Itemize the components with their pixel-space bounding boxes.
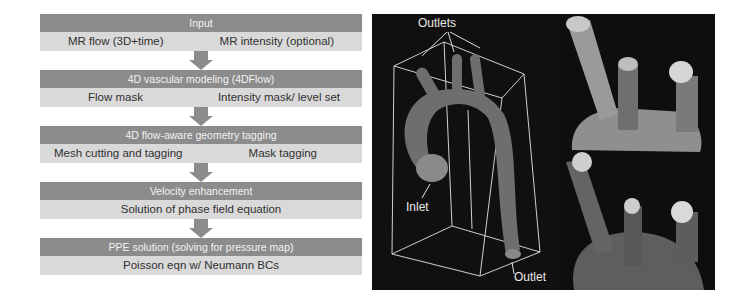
inlet-label: Inlet bbox=[406, 200, 429, 214]
stage-ppe-solution: PPE solution (solving for pressure map) … bbox=[40, 238, 362, 275]
outlet-label: Outlet bbox=[514, 270, 546, 284]
stage-title: Input bbox=[40, 14, 362, 32]
stage-items: Mesh cutting and tagging Mask tagging bbox=[40, 144, 362, 163]
stage-geometry-tagging: 4D flow-aware geometry tagging Mesh cutt… bbox=[40, 126, 362, 163]
mesh-render bbox=[566, 152, 704, 290]
stage-title: Velocity enhancement bbox=[40, 182, 362, 200]
stage-item: Flow mask bbox=[88, 88, 143, 107]
pipeline-flowchart: Input MR flow (3D+time) MR intensity (op… bbox=[40, 14, 362, 275]
down-arrow-icon bbox=[40, 51, 362, 70]
outlets-label: Outlets bbox=[418, 16, 456, 30]
stage-item: Intensity mask/ level set bbox=[218, 88, 340, 107]
stage-vascular-modeling: 4D vascular modeling (4DFlow) Flow mask … bbox=[40, 70, 362, 107]
stage-items: Solution of phase field equation bbox=[40, 200, 362, 219]
stage-velocity-enhancement: Velocity enhancement Solution of phase f… bbox=[40, 182, 362, 219]
branch-render-figures bbox=[560, 14, 715, 290]
aorta-wireframe-figure bbox=[372, 14, 560, 290]
stage-item: Mask tagging bbox=[249, 144, 317, 163]
aorta-render: Outlets Inlet Outlet bbox=[372, 14, 560, 290]
stage-item: MR flow (3D+time) bbox=[68, 32, 164, 51]
stage-item: Mesh cutting and tagging bbox=[54, 144, 183, 163]
stage-items: Flow mask Intensity mask/ level set bbox=[40, 88, 362, 107]
stage-item: Poisson eqn w/ Neumann BCs bbox=[123, 256, 279, 275]
stage-title: 4D vascular modeling (4DFlow) bbox=[40, 70, 362, 88]
stage-input: Input MR flow (3D+time) MR intensity (op… bbox=[40, 14, 362, 51]
down-arrow-icon bbox=[40, 107, 362, 126]
stage-items: MR flow (3D+time) MR intensity (optional… bbox=[40, 32, 362, 51]
arch-branch-renders bbox=[560, 14, 715, 290]
stage-items: Poisson eqn w/ Neumann BCs bbox=[40, 256, 362, 275]
voxel-mask-render bbox=[566, 16, 701, 152]
down-arrow-icon bbox=[40, 219, 362, 238]
stage-title: PPE solution (solving for pressure map) bbox=[40, 238, 362, 256]
down-arrow-icon bbox=[40, 163, 362, 182]
stage-title: 4D flow-aware geometry tagging bbox=[40, 126, 362, 144]
stage-item: Solution of phase field equation bbox=[121, 200, 281, 219]
aorta-vessel bbox=[405, 53, 521, 259]
stage-item: MR intensity (optional) bbox=[220, 32, 334, 51]
